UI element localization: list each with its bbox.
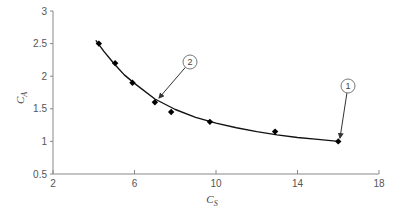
data-points [96,40,342,144]
diamond-marker [168,109,174,115]
y-axis-title: CA [14,92,29,104]
fitted-curve-line [96,40,338,141]
x-tick-label: 10 [210,178,222,189]
x-tick-label: 14 [292,178,304,189]
callout-arrow [340,93,347,138]
x-tick-label: 2 [50,178,56,189]
annotations: 12 [159,55,355,138]
diamond-marker [207,119,213,125]
x-axis-title: CS [206,193,217,208]
y-tick-label: 3 [41,6,47,17]
diamond-marker [112,60,118,66]
fitted-curve [96,40,338,141]
x-tick-label: 6 [132,178,138,189]
y-tick-label: 1.5 [33,103,47,114]
chart: 261014180.511.522.53 12 CS CA [0,0,398,219]
diamond-marker [335,138,341,144]
y-tick-label: 2 [41,71,47,82]
callout-label: 1 [345,81,350,91]
y-tick-label: 2.5 [33,38,47,49]
x-tick-label: 18 [373,178,385,189]
axes: 261014180.511.522.53 [33,6,385,190]
callout-label: 2 [187,57,192,67]
callout-arrow [159,67,185,98]
y-tick-label: 0.5 [33,169,47,180]
y-tick-label: 1 [41,136,47,147]
